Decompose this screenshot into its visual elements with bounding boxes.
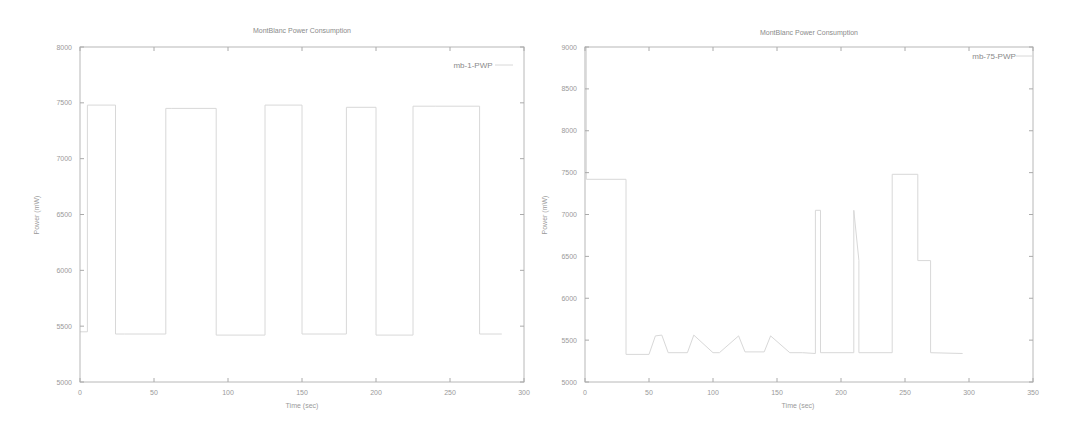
y-axis-label: Power (mW): [541, 196, 549, 235]
x-tick-label: 0: [78, 389, 82, 396]
power-chart-mb-1: MontBlanc Power Consumption 050100150200…: [0, 0, 540, 425]
x-tick-label: 250: [444, 389, 456, 396]
legend-label: mb-75-PWP: [972, 52, 1016, 61]
y-tick-label: 7500: [56, 99, 72, 106]
power-chart-mb-75: MontBlanc Power Consumption 050100150200…: [540, 0, 1068, 425]
y-tick-label: 6000: [561, 295, 577, 302]
chart-svg: MontBlanc Power Consumption 050100150200…: [540, 0, 1068, 425]
x-tick-label: 350: [1027, 389, 1039, 396]
x-axis-label: Time (sec): [286, 402, 319, 410]
y-tick-label: 5000: [561, 379, 577, 386]
chart-title: MontBlanc Power Consumption: [760, 29, 858, 37]
x-tick-label: 250: [899, 389, 911, 396]
y-tick-label: 5000: [56, 379, 72, 386]
x-tick-label: 200: [835, 389, 847, 396]
x-tick-label: 50: [150, 389, 158, 396]
plot-area: 0501001502002503005000550060006500700075…: [56, 44, 530, 397]
x-tick-label: 100: [707, 389, 719, 396]
y-tick-label: 7000: [56, 155, 72, 162]
x-tick-label: 50: [645, 389, 653, 396]
y-tick-label: 6500: [56, 211, 72, 218]
chart-title: MontBlanc Power Consumption: [253, 27, 351, 35]
y-tick-label: 5500: [56, 323, 72, 330]
x-axis-label: Time (sec): [782, 402, 815, 410]
y-tick-label: 8500: [561, 85, 577, 92]
x-tick-label: 0: [583, 389, 587, 396]
plot-area: 0501001502002503003505000550060006500700…: [561, 44, 1039, 397]
x-tick-label: 200: [370, 389, 382, 396]
y-tick-label: 8000: [561, 127, 577, 134]
x-tick-label: 300: [963, 389, 975, 396]
y-tick-label: 6000: [56, 267, 72, 274]
y-tick-label: 6500: [561, 253, 577, 260]
plot-frame: [585, 47, 1033, 382]
y-tick-label: 5500: [561, 337, 577, 344]
y-tick-label: 8000: [56, 44, 72, 51]
x-tick-label: 300: [518, 389, 530, 396]
y-tick-label: 9000: [561, 44, 577, 51]
x-tick-label: 150: [771, 389, 783, 396]
legend-label: mb-1-PWP: [453, 61, 492, 70]
chart-svg: MontBlanc Power Consumption 050100150200…: [0, 0, 540, 425]
x-tick-label: 150: [296, 389, 308, 396]
y-tick-label: 7000: [561, 211, 577, 218]
y-axis-label: Power (mW): [33, 196, 41, 235]
data-series-line: [80, 105, 502, 335]
x-tick-label: 100: [222, 389, 234, 396]
data-series-line: [585, 47, 963, 354]
y-tick-label: 7500: [561, 169, 577, 176]
